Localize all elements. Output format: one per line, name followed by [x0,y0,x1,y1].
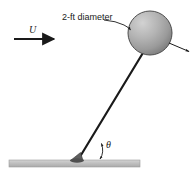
sphere [128,11,172,55]
diameter-label: 2-ft diameter [62,12,113,22]
angle-symbol: θ [106,139,111,150]
velocity-symbol: U [29,24,37,35]
force-arrow [169,43,189,52]
sphere-cable-flow-figure: 2-ft diameter U θ [0,0,193,178]
angle-arc [100,144,103,160]
